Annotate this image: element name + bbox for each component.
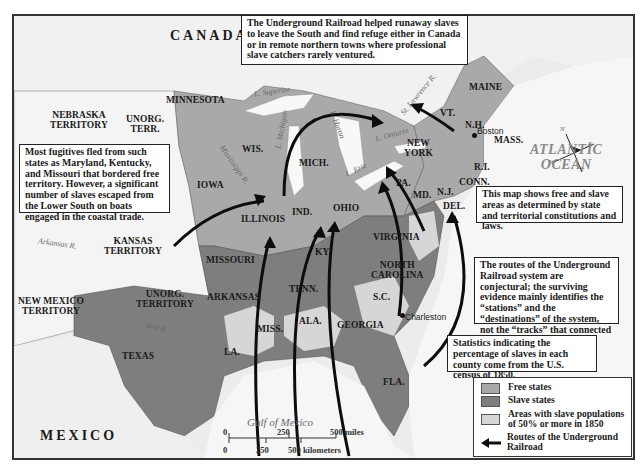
label-alabama: ALA. — [299, 316, 322, 326]
label-new-york: NEWYORK — [404, 138, 433, 158]
label-unorg-terr: UNORG.TERR. — [126, 114, 164, 134]
label-wisconsin: WIS. — [242, 144, 263, 154]
label-pennsylvania: PA. — [396, 178, 411, 188]
label-minnesota: MINNESOTA — [166, 95, 225, 105]
label-north-carolina: NORTHCAROLINA — [371, 260, 424, 280]
scale-km-0: 0 — [223, 445, 227, 455]
label-maine: MAINE — [469, 82, 502, 92]
scale-miles-0: 0 — [223, 427, 227, 437]
label-new-mexico-territory: NEW MEXICOTERRITORY — [18, 296, 84, 316]
label-georgia: GEORGIA — [337, 320, 384, 330]
legend-label: Slave states — [508, 395, 555, 405]
note-left-fugitives: Most fugitives fled from such states as … — [19, 144, 170, 213]
legend-item-slave-states: Slave states — [481, 395, 555, 407]
label-boston: Boston — [477, 126, 503, 136]
note-census-statistics: Statistics indicating the percentage of … — [447, 335, 597, 372]
scale-miles-250: 250 — [277, 427, 290, 437]
label-tennessee: TENN. — [289, 284, 318, 294]
compass-s: S — [580, 165, 584, 173]
label-unorg-territory: UNORG.TERRITORY — [136, 289, 194, 309]
free-states-swatch — [481, 383, 500, 394]
legend-label: Areas with slave populations of 50% or m… — [508, 409, 631, 429]
note-free-slave-areas: This map shows free and slave areas as d… — [476, 186, 623, 223]
legend-item-free-states: Free states — [481, 382, 551, 394]
label-indiana: IND. — [292, 207, 312, 217]
scale-km-250: 250 — [256, 445, 269, 455]
label-arkansas: ARKANSAS — [207, 292, 260, 302]
label-missouri: MISSOURI — [206, 255, 255, 265]
scale-miles-500: 500 miles — [330, 427, 364, 437]
label-virginia: VIRGINIA — [373, 232, 420, 242]
label-texas: TEXAS — [122, 351, 154, 361]
label-south-carolina: S.C. — [373, 292, 390, 302]
note-routes-conjectural: The routes of the Underground Railroad s… — [474, 257, 619, 324]
label-illinois: ILLINOIS — [241, 214, 285, 224]
label-massachusetts: MASS. — [494, 135, 523, 145]
label-iowa: IOWA — [197, 180, 224, 190]
scale-km-500: 500 kilometers — [288, 445, 341, 455]
label-canada: CANADA — [170, 31, 249, 41]
legend-item-routes: Routes of the Underground Railroad — [481, 432, 631, 452]
label-maryland: MD. — [413, 190, 432, 200]
label-nebraska-territory: NEBRASKATERRITORY — [50, 110, 108, 130]
note-top-underground-railroad: The Underground Railroad helped runaway … — [241, 15, 468, 65]
label-mexico: MEXICO — [40, 431, 117, 441]
label-new-jersey: N.J. — [437, 187, 454, 197]
label-louisiana: LA. — [224, 347, 240, 357]
label-vermont: VT. — [440, 108, 455, 118]
route-arrow-icon — [481, 437, 501, 449]
label-rhode-island: R.I. — [474, 162, 490, 172]
label-michigan: MICH. — [299, 158, 329, 168]
label-kentucky: KY. — [315, 247, 331, 257]
legend-label: Free states — [508, 382, 551, 392]
slave-states-swatch — [481, 396, 500, 407]
label-charleston: Charleston — [405, 312, 446, 322]
label-florida: FLA. — [383, 377, 405, 387]
label-delaware: DEL. — [443, 201, 465, 211]
compass-w: W — [549, 158, 555, 166]
compass-e: E — [588, 140, 592, 148]
label-kansas-territory: KANSASTERRITORY — [104, 236, 162, 256]
legend-item-majority-slave-areas: Areas with slave populations of 50% or m… — [481, 409, 631, 429]
label-ohio: OHIO — [333, 203, 359, 213]
compass-n: N — [560, 125, 565, 133]
majority-slave-swatch — [481, 414, 500, 425]
label-mississippi: MISS. — [257, 324, 283, 334]
legend-label: Routes of the Underground Railroad — [507, 432, 631, 452]
